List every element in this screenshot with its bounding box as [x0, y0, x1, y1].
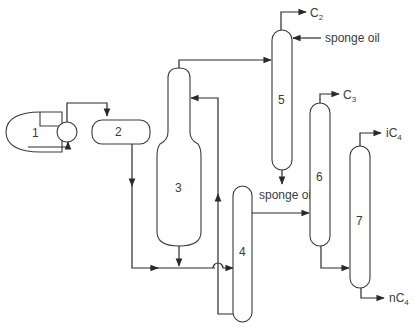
unit-1-label: 1: [32, 126, 39, 140]
unit-5-column: 5: [272, 30, 292, 170]
unit-2-drum: 2: [92, 120, 150, 144]
col3-overhead-line: [179, 60, 271, 68]
unit-2-label: 2: [115, 125, 122, 139]
c2-label: C2: [310, 6, 324, 22]
compressor-to-drum-line: [67, 103, 107, 122]
unit-3-column: 3: [157, 68, 201, 246]
nc4-label: nC4: [389, 291, 409, 307]
sponge-oil-out-label: sponge oil: [259, 188, 314, 202]
unit-5-label: 5: [278, 93, 285, 107]
unit-6-column: 6: [310, 103, 330, 246]
unit-3-label: 3: [175, 181, 182, 195]
hop-line: [213, 263, 233, 268]
ic4-label: iC4: [386, 126, 402, 142]
col6-bottoms-line: [321, 246, 349, 268]
unit-1-compressor: 1: [6, 112, 77, 152]
c3-label: C3: [343, 88, 357, 104]
nc4-outlet-line: [361, 288, 384, 298]
unit-6-label: 6: [316, 170, 323, 184]
unit-7-column: 7: [350, 146, 370, 288]
ic4-outlet-line: [360, 133, 381, 146]
unit-7-label: 7: [356, 214, 363, 228]
unit-4-column: 4: [233, 186, 252, 322]
process-flow-diagram: 1 2 3 4 5 C2 sponge oil sponge oil: [0, 0, 415, 333]
c3-outlet-line: [320, 94, 339, 103]
unit-4-label: 4: [239, 245, 246, 259]
sponge-oil-in-label: sponge oil: [325, 31, 380, 45]
c2-outlet-line: [281, 12, 306, 30]
